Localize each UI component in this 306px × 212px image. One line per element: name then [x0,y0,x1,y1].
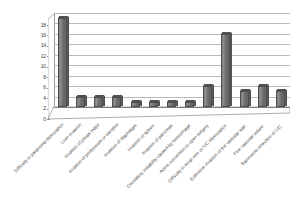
y-axis-tick-label: 10 [4,64,46,69]
bar-side-face [121,96,123,106]
bar-side-face [285,90,287,106]
bar [276,91,285,107]
bar-top-face [131,100,142,102]
bar-slot [146,13,164,107]
bar-slot [109,13,127,107]
bar [149,102,158,107]
bar-slot [73,13,91,107]
bar-slot [273,13,291,107]
bar [131,102,140,107]
bar-top-face [94,95,105,97]
bar-slot [255,13,273,107]
bar [240,91,249,107]
axis-baseline [54,107,290,108]
bar [58,18,67,107]
bar [167,102,176,107]
bar [221,34,230,107]
bar-top-face [149,100,160,102]
y-axis-tick-label: 8 [4,75,46,80]
bar-top-face [185,100,196,102]
x-axis-labels: Difficulty in paranoma dissociationLiver… [0,116,306,212]
bar [258,86,267,107]
y-axis-tick-label: 4 [4,96,46,101]
bar [185,102,194,107]
bar-top-face [76,95,87,97]
y-axis-tick-label: 18 [4,23,46,28]
bar [112,97,121,107]
bar-slot [128,13,146,107]
bar-slot [200,13,218,107]
bar [76,97,85,107]
bar [203,86,212,107]
bar-side-face [194,101,196,106]
bar-side-face [85,96,87,106]
y-axis: 024681012141618 [0,13,46,118]
bar-slot [91,13,109,107]
y-axis-tick-label: 6 [4,85,46,90]
bar-side-face [267,85,269,106]
bar-slot [237,13,255,107]
y-axis-tick-label: 2 [4,106,46,111]
y-axis-tick-label: 14 [4,43,46,48]
x-axis-label: Invasion of diaphragm [102,123,137,158]
bar-chart: 024681012141618 Difficulty in paranoma d… [0,0,306,212]
bar-side-face [103,96,105,106]
bar [94,97,103,107]
y-axis-tick-label: 12 [4,54,46,59]
bar-slot [218,13,236,107]
bar-slot [55,13,73,107]
y-axis-tick-label: 16 [4,33,46,38]
bar-side-face [230,33,232,106]
bar-side-face [67,17,69,106]
x-axis-label: Difficulty in paranoma dissociation [13,122,64,173]
bar-side-face [249,90,251,106]
bar-side-face [212,85,214,106]
bar-series [54,13,290,107]
bar-top-face [112,95,123,97]
bar-top-face [167,100,178,102]
bar-slot [182,13,200,107]
bar-top-face [258,84,269,86]
bar-top-face [58,16,69,18]
bar-slot [164,13,182,107]
